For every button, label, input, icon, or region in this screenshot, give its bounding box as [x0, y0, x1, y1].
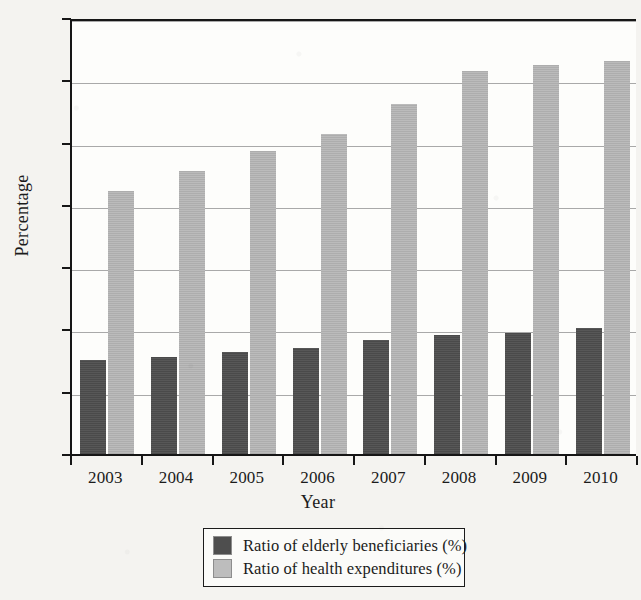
bar-2005-series1	[222, 352, 248, 455]
bar-2010-series2	[604, 61, 630, 455]
legend-item: Ratio of health expenditures (%)	[213, 557, 455, 580]
bar-2005-series2	[250, 151, 276, 455]
y-tick-mark	[62, 267, 71, 269]
x-tick-label-2007: 2007	[348, 468, 428, 488]
x-tick-label-2008: 2008	[419, 468, 499, 488]
bar-2010-series1	[576, 328, 602, 455]
bar-2006-series2	[321, 134, 347, 455]
legend-label: Ratio of health expenditures (%)	[243, 559, 462, 579]
legend-item: Ratio of elderly beneficiaries (%)	[213, 534, 455, 557]
bars-container	[72, 21, 636, 455]
y-tick-mark	[62, 80, 71, 82]
x-tick-mark	[424, 456, 426, 465]
bar-2008-series1	[434, 335, 460, 455]
bar-2003-series2	[108, 191, 134, 455]
bar-2009-series2	[533, 65, 559, 455]
x-tick-label-2004: 2004	[136, 468, 216, 488]
bar-2007-series2	[391, 104, 417, 455]
x-tick-mark	[565, 456, 567, 465]
y-tick-mark	[62, 18, 71, 20]
x-tick-label-2009: 2009	[490, 468, 570, 488]
y-tick-mark	[62, 143, 71, 145]
legend-swatch-icon	[213, 559, 232, 578]
x-tick-label-2003: 2003	[65, 468, 145, 488]
legend-swatch-icon	[213, 536, 232, 555]
x-tick-mark	[636, 456, 638, 465]
bar-2004-series2	[179, 171, 205, 455]
x-tick-mark	[141, 456, 143, 465]
bar-2003-series1	[80, 360, 106, 455]
x-tick-label-2005: 2005	[207, 468, 287, 488]
x-tick-mark	[353, 456, 355, 465]
bar-2007-series1	[363, 340, 389, 455]
legend-label: Ratio of elderly beneficiaries (%)	[243, 536, 467, 556]
plot-area	[70, 19, 636, 455]
bar-2006-series1	[293, 348, 319, 455]
x-tick-mark	[212, 456, 214, 465]
y-tick-mark	[62, 392, 71, 394]
x-tick-mark	[282, 456, 284, 465]
x-tick-mark	[70, 456, 72, 465]
y-tick-mark	[62, 205, 71, 207]
y-axis-title: Percentage	[12, 106, 33, 326]
bar-2004-series1	[151, 357, 177, 455]
y-tick-mark	[62, 329, 71, 331]
x-axis-title: Year	[0, 492, 636, 513]
x-tick-label-2010: 2010	[561, 468, 641, 488]
chart-legend: Ratio of elderly beneficiaries (%)Ratio …	[203, 528, 465, 587]
x-tick-label-2006: 2006	[278, 468, 358, 488]
bar-2008-series2	[462, 71, 488, 455]
x-tick-mark	[495, 456, 497, 465]
bar-2009-series1	[505, 333, 531, 455]
